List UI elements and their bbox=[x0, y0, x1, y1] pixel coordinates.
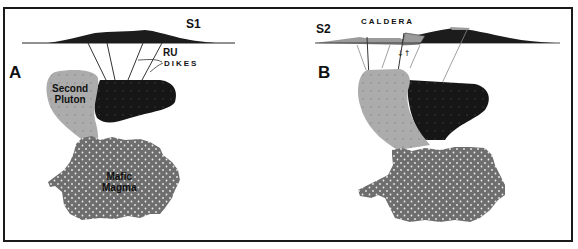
stage-s1-label: S1 bbox=[186, 17, 201, 31]
second-pluton bbox=[46, 70, 98, 145]
dikes-label: DIKES bbox=[164, 59, 198, 68]
mafic-magma-b bbox=[358, 147, 505, 222]
dikes bbox=[88, 43, 162, 80]
caldera-fill bbox=[315, 37, 410, 45]
mafic-magma-label: Mafic Magma bbox=[102, 171, 136, 193]
volcano-edifice bbox=[48, 30, 215, 43]
caldera-label: CALDERA bbox=[361, 17, 414, 26]
second-pluton-label: Second Pluton bbox=[52, 83, 88, 105]
second-pluton-label-line1: Second bbox=[52, 83, 88, 94]
second-pluton-label-line2: Pluton bbox=[52, 94, 88, 105]
panel-a-letter: A bbox=[9, 63, 21, 83]
mafic-magma-label-line2: Magma bbox=[102, 182, 136, 193]
diagram-canvas: ↓↑ bbox=[0, 0, 578, 249]
first-pluton bbox=[94, 80, 176, 123]
mafic-magma-label-line1: Mafic bbox=[102, 171, 136, 182]
svg-text:↓↑: ↓↑ bbox=[397, 49, 410, 58]
ru-label: RU bbox=[163, 47, 177, 58]
panel-b-letter: B bbox=[318, 63, 330, 83]
panel-b: ↓↑ bbox=[315, 27, 560, 222]
stage-s2-label: S2 bbox=[316, 22, 331, 36]
first-pluton-b bbox=[408, 80, 489, 140]
